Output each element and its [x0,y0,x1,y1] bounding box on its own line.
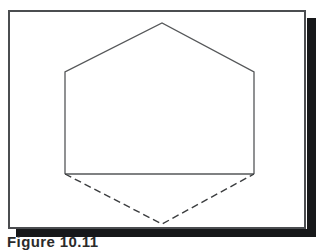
figure-frame: Hexagon with solid upper outline and das… [8,10,306,229]
figure-frame-shadow-right [307,18,316,233]
hexagon-upper-solid-outline [65,23,254,174]
hexagon-diagram: Hexagon with solid upper outline and das… [10,12,308,231]
figure-caption: Figure 10.11 [7,234,99,250]
hexagon-lower-dashed-outline [65,174,254,224]
